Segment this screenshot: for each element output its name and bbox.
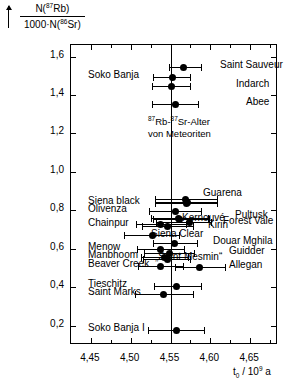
y-tick-major-right <box>271 287 276 288</box>
x-axis-title-unit: a <box>263 366 271 377</box>
meteorite-label: „Saint Mesmin“ <box>155 251 222 262</box>
data-point[interactable] <box>173 327 180 334</box>
x-tick-major <box>250 338 251 343</box>
annotation-sup-2: 87 <box>171 115 178 122</box>
x-tick-major-top <box>91 45 92 50</box>
x-tick-major-top <box>171 45 172 50</box>
x-axis-title-rest: / 10 <box>239 366 258 377</box>
error-bar-cap-high <box>217 200 218 207</box>
y-tick-label: 1,6 <box>38 49 64 60</box>
meteorite-label: Saint Marks <box>88 286 141 297</box>
x-tick-minor-top <box>111 45 112 48</box>
meteorite-label: Forest Vale <box>223 215 273 226</box>
data-point[interactable] <box>171 240 178 247</box>
x-tick-label: 4,50 <box>110 352 150 363</box>
meteorite-label: Soko Banja <box>88 69 139 80</box>
y-tick-major-right <box>271 57 276 58</box>
y-tick-major-right <box>271 95 276 96</box>
error-bar-cap-high <box>190 83 191 90</box>
y-tick-major <box>71 172 76 173</box>
y-tick-major <box>71 95 76 96</box>
meteorite-label: Guarena <box>203 187 242 198</box>
y-tick-major <box>71 133 76 134</box>
y-axis-fraction: N(87Rb) 1000·N(86Sr) <box>20 1 85 32</box>
y-tick-label: 0,8 <box>38 202 64 213</box>
error-bar-cap-high <box>204 327 205 334</box>
y-axis-arrow-icon <box>8 6 9 28</box>
x-tick-minor <box>230 340 231 343</box>
error-bar-cap-low <box>155 200 156 207</box>
x-tick-major <box>91 338 92 343</box>
data-point[interactable] <box>196 264 203 271</box>
numerator-text: Rb) <box>53 3 69 14</box>
annotation-line-1: 87Rb-87Sr-Alter <box>148 116 211 128</box>
error-bar-cap-low <box>142 223 143 230</box>
meteorite-label: Guidder <box>229 245 265 256</box>
x-tick-major-top <box>131 45 132 50</box>
x-axis-title: t0 / 109 a <box>233 366 271 377</box>
data-point[interactable] <box>180 64 187 71</box>
y-axis-denominator: 1000·N(86Sr) <box>20 16 85 32</box>
meteorite-label: Allegan <box>229 259 262 270</box>
x-tick-major <box>131 338 132 343</box>
x-tick-minor <box>270 340 271 343</box>
y-tick-major <box>71 326 76 327</box>
error-bar-cap-low <box>154 283 155 290</box>
y-tick-label: 1,4 <box>38 87 64 98</box>
x-tick-label: 4,55 <box>150 352 190 363</box>
annotation-line-2: von Meteoriten <box>148 128 211 140</box>
y-tick-label: 0,2 <box>38 318 64 329</box>
annotation-mid: Rb- <box>155 116 170 127</box>
x-tick-minor-top <box>270 45 271 48</box>
data-point[interactable] <box>169 74 176 81</box>
y-axis-title: N(87Rb) 1000·N(86Sr) <box>4 1 139 35</box>
data-point[interactable] <box>168 83 175 90</box>
error-bar-cap-low <box>169 64 170 71</box>
x-tick-label: 4,45 <box>70 352 110 363</box>
y-tick-label: 1,0 <box>38 164 64 175</box>
x-tick-major <box>210 338 211 343</box>
data-point[interactable] <box>173 283 180 290</box>
error-bar-cap-high <box>201 283 202 290</box>
x-tick-minor-top <box>151 45 152 48</box>
plot-frame <box>70 44 277 344</box>
x-tick-label: 4,60 <box>189 352 229 363</box>
meteorite-label: Chainpur <box>88 217 129 228</box>
x-tick-major-top <box>210 45 211 50</box>
y-tick-major-right <box>271 326 276 327</box>
error-bar-cap-low <box>149 208 150 215</box>
data-point[interactable] <box>160 291 167 298</box>
y-tick-label: 1,2 <box>38 125 64 136</box>
y-axis-numerator: N(87Rb) <box>20 1 85 16</box>
meteorite-label: Siena Clear <box>151 228 203 239</box>
meteorite-label: Indarch <box>236 78 269 89</box>
meteorite-label: Soko Banja I <box>88 322 145 333</box>
y-tick-major <box>71 57 76 58</box>
x-tick-label: 4,65 <box>229 352 269 363</box>
error-bar-cap-low <box>124 232 125 239</box>
chart-annotation: 87Rb-87Sr-Alter von Meteoriten <box>148 116 211 140</box>
error-bar-cap-high <box>201 64 202 71</box>
denominator-text: Sr) <box>67 19 80 30</box>
error-bar-cap-high <box>198 101 199 108</box>
y-tick-label: 0,6 <box>38 241 64 252</box>
error-bar-cap-low <box>153 74 154 81</box>
error-bar-cap-low <box>153 240 154 247</box>
x-tick-major-top <box>250 45 251 50</box>
error-bar-cap-low <box>152 101 153 108</box>
meteorite-label: Olivenza <box>88 203 127 214</box>
meteorite-label: Saint Sauveur <box>220 59 283 70</box>
error-bar-cap-high <box>225 264 226 271</box>
error-bar-cap-high <box>197 240 198 247</box>
x-tick-minor <box>190 340 191 343</box>
meteorite-label: Beaver Creek <box>88 258 149 269</box>
x-tick-minor <box>151 340 152 343</box>
error-bar-cap-high <box>193 291 194 298</box>
data-point[interactable] <box>183 200 190 207</box>
data-point[interactable] <box>172 101 179 108</box>
meteorite-label: Abee <box>246 96 269 107</box>
error-bar-cap-low <box>175 264 176 271</box>
y-tick-major <box>71 287 76 288</box>
y-tick-label: 0,4 <box>38 279 64 290</box>
x-tick-minor-top <box>230 45 231 48</box>
